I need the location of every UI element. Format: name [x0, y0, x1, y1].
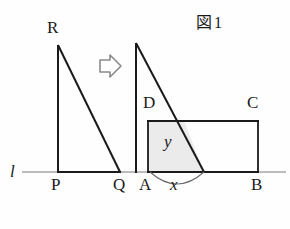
figure-caption-number: 1: [214, 14, 224, 31]
label-distance-x: x: [170, 176, 178, 193]
label-point-Q: Q: [113, 176, 125, 193]
geometry-drawing: [0, 0, 290, 229]
right-arrow-icon: [100, 55, 121, 77]
label-area-y: y: [164, 133, 172, 150]
label-line-l: l: [10, 163, 15, 180]
figure-caption-kanji: 図: [196, 13, 214, 32]
label-point-R: R: [47, 19, 58, 36]
overlap-shaded-area: [148, 121, 204, 172]
figure-canvas: 図1 l R P Q A B C D y x: [0, 0, 290, 229]
figure-caption: 図1: [196, 9, 224, 33]
label-point-A: A: [139, 176, 151, 193]
label-point-P: P: [51, 176, 60, 193]
label-point-D: D: [143, 94, 155, 111]
label-point-B: B: [251, 176, 262, 193]
label-point-C: C: [247, 94, 258, 111]
